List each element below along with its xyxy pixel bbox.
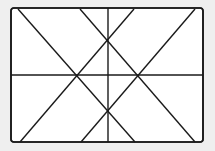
diagram-canvas <box>0 0 215 151</box>
